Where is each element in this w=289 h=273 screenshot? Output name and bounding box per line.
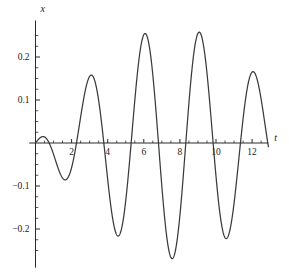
y-tick-label: −0.1 xyxy=(12,181,29,191)
x-tick-label: 10 xyxy=(211,147,221,157)
x-axis-label: t xyxy=(274,132,277,143)
y-tick-label: 0.2 xyxy=(18,52,30,62)
plot-figure: 24681012−0.2−0.10.10.2 tx xyxy=(0,0,289,273)
x-tick-label: 2 xyxy=(69,147,74,157)
plot-canvas: 24681012−0.2−0.10.10.2 tx xyxy=(0,0,289,273)
axis-name-group: tx xyxy=(40,3,278,143)
data-curve-group xyxy=(36,32,269,258)
y-tick-label: 0.1 xyxy=(18,95,30,105)
x-tick-label: 6 xyxy=(141,147,146,157)
y-tick-label: −0.2 xyxy=(12,224,29,234)
x-tick-label: 4 xyxy=(105,147,110,157)
x-tick-label: 8 xyxy=(178,147,183,157)
x-tick-label: 12 xyxy=(247,147,257,157)
axes-group xyxy=(29,20,268,267)
data-curve xyxy=(36,32,269,258)
y-axis-label: x xyxy=(40,3,46,14)
